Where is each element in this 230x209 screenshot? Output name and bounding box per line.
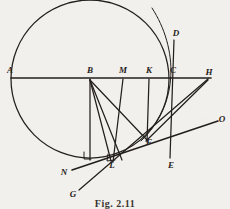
point-label-G: G	[70, 190, 77, 199]
ray-G-to-H	[79, 79, 208, 190]
chord-B-to-F	[90, 80, 147, 140]
point-label-A: A	[7, 66, 13, 75]
chord-B-to-Mfoot	[90, 80, 122, 160]
point-label-B: B	[87, 66, 93, 75]
point-label-F: F	[146, 138, 152, 147]
point-label-O: O	[219, 115, 226, 124]
figure-caption: Fig. 2.11	[95, 198, 135, 209]
point-label-M: M	[119, 66, 127, 75]
point-label-N: N	[61, 168, 68, 177]
geometry-figure: .ink { stroke: #231f1d; fill: none; stro…	[0, 0, 230, 209]
point-label-H: H	[205, 68, 212, 77]
point-label-K: K	[146, 66, 152, 75]
figure-canvas: .ink { stroke: #231f1d; fill: none; stro…	[0, 0, 230, 209]
ray-F-to-H	[146, 80, 208, 141]
point-label-D: D	[173, 29, 180, 38]
point-label-C: C	[170, 66, 176, 75]
chord-B-to-L	[90, 80, 111, 161]
point-label-L: L	[109, 161, 115, 170]
point-label-E: E	[168, 161, 174, 170]
